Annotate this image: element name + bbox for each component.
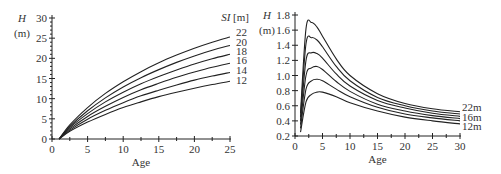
series-line-18m bbox=[301, 52, 461, 121]
y-axis-unit: (m) bbox=[14, 27, 30, 40]
y-tick-label: 20 bbox=[36, 52, 48, 64]
y-tick-label: 10 bbox=[36, 93, 48, 105]
x-tick-label: 5 bbox=[320, 140, 326, 152]
y-tick-label: 1.8 bbox=[276, 9, 290, 21]
legend-label-12m: 12m bbox=[462, 120, 482, 132]
x-axis-label: Age bbox=[368, 153, 386, 165]
y-tick-label: 15 bbox=[36, 73, 48, 85]
x-tick-label: 25 bbox=[427, 140, 439, 152]
series-line-20 bbox=[59, 45, 230, 139]
series-line-22m bbox=[301, 20, 461, 113]
x-tick-label: 0 bbox=[292, 140, 298, 152]
x-tick-label: 20 bbox=[189, 143, 201, 155]
legend-label-12: 12 bbox=[236, 74, 247, 86]
x-tick-label: 20 bbox=[400, 140, 412, 152]
y-tick-label: 5 bbox=[42, 113, 48, 125]
x-tick-label: 15 bbox=[153, 143, 165, 155]
x-tick-label: 25 bbox=[225, 143, 237, 155]
y-axis-label: H bbox=[17, 12, 27, 24]
y-tick-label: 1.6 bbox=[276, 24, 290, 36]
x-tick-label: 10 bbox=[345, 140, 357, 152]
x-tick-label: 15 bbox=[372, 140, 384, 152]
y-tick-label: 0.8 bbox=[276, 85, 290, 97]
x-axis-label: Age bbox=[132, 156, 150, 168]
x-tick-label: 5 bbox=[85, 143, 91, 155]
figure: 0510152025300510152025AgeH(m)SI [m]22201… bbox=[0, 0, 501, 174]
x-tick-label: 0 bbox=[49, 143, 55, 155]
y-axis-unit: (m) bbox=[259, 24, 275, 37]
left-chart: 0510152025300510152025AgeH(m)SI [m]22201… bbox=[14, 11, 249, 168]
y-tick-label: 0 bbox=[42, 133, 48, 145]
x-tick-label: 30 bbox=[455, 140, 467, 152]
y-tick-label: 25 bbox=[36, 32, 48, 44]
y-tick-label: 1.2 bbox=[276, 54, 290, 66]
x-tick-label: 10 bbox=[118, 143, 130, 155]
y-tick-label: 0.6 bbox=[276, 100, 290, 112]
y-tick-label: 0.4 bbox=[276, 115, 290, 127]
series-line-18 bbox=[59, 54, 230, 139]
y-tick-label: 30 bbox=[36, 12, 48, 24]
y-tick-label: 1.4 bbox=[276, 39, 290, 51]
y-tick-label: 0.2 bbox=[276, 130, 290, 142]
y-tick-label: 1.0 bbox=[276, 70, 290, 82]
y-axis-label: H bbox=[262, 9, 272, 21]
legend-title: SI [m] bbox=[221, 11, 249, 23]
right-chart: 0.20.40.60.81.01.21.41.61.8051015202530A… bbox=[259, 9, 482, 165]
